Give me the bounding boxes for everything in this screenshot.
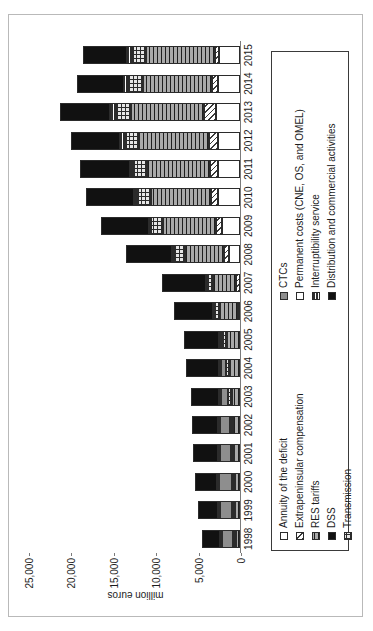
bar-segment[interactable]: [76, 74, 123, 92]
bar-segment[interactable]: [234, 444, 240, 462]
bar-segment[interactable]: [217, 131, 239, 149]
bar-segment[interactable]: [109, 103, 114, 121]
bar-column[interactable]: [59, 103, 239, 121]
bar-segment[interactable]: [186, 359, 218, 377]
bar-segment[interactable]: [132, 46, 145, 64]
bar-segment[interactable]: [235, 529, 239, 547]
bar-segment[interactable]: [130, 103, 203, 121]
bar-segment[interactable]: [210, 160, 218, 178]
legend-item[interactable]: CTCs: [278, 60, 290, 300]
bar-segment[interactable]: [219, 472, 231, 490]
bar-segment[interactable]: [219, 501, 232, 519]
bar-segment[interactable]: [219, 302, 237, 320]
bar-segment[interactable]: [82, 46, 126, 64]
bar-segment[interactable]: [59, 103, 109, 121]
bar-segment[interactable]: [219, 444, 230, 462]
bar-segment[interactable]: [119, 131, 123, 149]
bar-segment[interactable]: [70, 131, 119, 149]
bar-segment[interactable]: [226, 359, 230, 377]
bar-segment[interactable]: [129, 74, 143, 92]
bar-segment[interactable]: [174, 245, 185, 263]
bar-segment[interactable]: [218, 46, 239, 64]
bar-column[interactable]: [76, 74, 239, 92]
bar-segment[interactable]: [214, 46, 218, 64]
bar-segment[interactable]: [227, 330, 240, 348]
bar-segment[interactable]: [184, 245, 223, 263]
bar-segment[interactable]: [142, 74, 212, 92]
bar-segment[interactable]: [174, 302, 213, 320]
bar-column[interactable]: [186, 359, 240, 377]
bar-segment[interactable]: [229, 416, 232, 434]
bar-segment[interactable]: [133, 160, 146, 178]
bar-segment[interactable]: [146, 160, 210, 178]
legend-item[interactable]: Transmission: [342, 308, 354, 540]
bar-segment[interactable]: [237, 302, 239, 320]
bar-segment[interactable]: [197, 501, 217, 519]
bar-column[interactable]: [174, 302, 240, 320]
bar-column[interactable]: [202, 529, 240, 547]
bar-segment[interactable]: [125, 131, 139, 149]
bar-segment[interactable]: [183, 330, 218, 348]
bar-segment[interactable]: [220, 359, 226, 377]
bar-column[interactable]: [193, 444, 240, 462]
bar-segment[interactable]: [222, 216, 240, 234]
bar-segment[interactable]: [190, 387, 218, 405]
bar-segment[interactable]: [235, 501, 240, 519]
bar-segment[interactable]: [216, 103, 240, 121]
bar-segment[interactable]: [151, 216, 163, 234]
bar-segment[interactable]: [145, 46, 214, 64]
bar-column[interactable]: [162, 273, 240, 291]
bar-segment[interactable]: [228, 245, 239, 263]
bar-segment[interactable]: [202, 529, 220, 547]
bar-segment[interactable]: [195, 472, 217, 490]
legend-item[interactable]: DSS: [326, 308, 338, 540]
bar-segment[interactable]: [215, 302, 219, 320]
bar-segment[interactable]: [123, 74, 127, 92]
bar-segment[interactable]: [228, 387, 232, 405]
bar-segment[interactable]: [223, 330, 227, 348]
bar-segment[interactable]: [211, 188, 218, 206]
bar-segment[interactable]: [217, 160, 239, 178]
bar-segment[interactable]: [217, 74, 239, 92]
bar-column[interactable]: [85, 188, 239, 206]
bar-segment[interactable]: [220, 387, 228, 405]
bar-segment[interactable]: [213, 273, 236, 291]
bar-segment[interactable]: [150, 188, 210, 206]
bar-column[interactable]: [192, 416, 240, 434]
bar-segment[interactable]: [230, 359, 240, 377]
bar-segment[interactable]: [208, 273, 213, 291]
bar-segment[interactable]: [139, 131, 209, 149]
bar-segment[interactable]: [203, 103, 216, 121]
legend-item[interactable]: Permanent costs (CNE, OS, and OMEL): [294, 60, 306, 300]
bar-column[interactable]: [197, 501, 239, 519]
bar-segment[interactable]: [218, 188, 240, 206]
bar-segment[interactable]: [219, 416, 229, 434]
bar-segment[interactable]: [231, 387, 239, 405]
bar-segment[interactable]: [126, 46, 130, 64]
bar-segment[interactable]: [221, 529, 232, 547]
legend-item[interactable]: Annuity of the deficit: [278, 308, 290, 540]
bar-column[interactable]: [195, 472, 240, 490]
bar-column[interactable]: [82, 46, 239, 64]
bar-segment[interactable]: [236, 273, 240, 291]
legend-item[interactable]: Distribution and commercial activities: [326, 60, 338, 300]
bar-column[interactable]: [190, 387, 239, 405]
bar-column[interactable]: [100, 216, 239, 234]
bar-column[interactable]: [80, 160, 240, 178]
bar-segment[interactable]: [100, 216, 148, 234]
legend-item[interactable]: Interruptibility service: [310, 60, 322, 300]
bar-segment[interactable]: [85, 188, 134, 206]
bar-segment[interactable]: [208, 131, 217, 149]
legend-item[interactable]: RES tariffs: [310, 308, 322, 540]
bar-segment[interactable]: [162, 216, 215, 234]
bar-segment[interactable]: [216, 216, 222, 234]
bar-segment[interactable]: [80, 160, 129, 178]
bar-segment[interactable]: [162, 273, 206, 291]
bar-column[interactable]: [125, 245, 239, 263]
bar-segment[interactable]: [116, 103, 130, 121]
bar-segment[interactable]: [233, 416, 240, 434]
bar-column[interactable]: [183, 330, 239, 348]
bar-segment[interactable]: [234, 472, 239, 490]
bar-segment[interactable]: [192, 416, 218, 434]
bar-segment[interactable]: [138, 188, 151, 206]
